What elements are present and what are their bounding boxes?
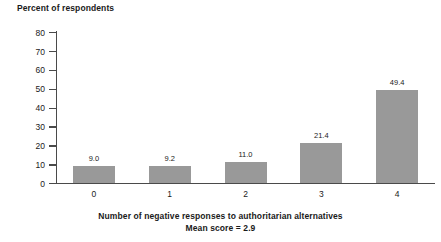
y-axis-tick-label: 50 xyxy=(36,84,45,94)
y-axis-tick: 60 xyxy=(49,70,56,71)
y-axis-tick: 50 xyxy=(49,89,56,90)
bar-value-label: 9.2 xyxy=(164,154,174,163)
y-axis-tick-label: 0 xyxy=(40,179,45,189)
bar: 49.44 xyxy=(376,90,418,183)
y-axis-tick: 70 xyxy=(49,51,56,52)
x-axis-tick-label: 0 xyxy=(92,189,97,199)
bar: 9.21 xyxy=(149,166,191,183)
plot-area: 807060504030201009.009.2111.0221.4349.44 xyxy=(56,32,435,183)
mean-score-note: Mean score = 2.9 xyxy=(0,223,441,233)
y-axis-tick-label: 60 xyxy=(36,65,45,75)
y-axis-tick: 20 xyxy=(49,145,56,146)
x-axis-tick-label: 2 xyxy=(243,189,248,199)
bar-value-label: 49.4 xyxy=(390,78,405,87)
y-axis-tick-label: 80 xyxy=(36,28,45,38)
x-axis-tick-label: 3 xyxy=(319,189,324,199)
y-axis-tick: 0 xyxy=(49,183,56,184)
y-axis-tick-label: 20 xyxy=(36,141,45,151)
bar-value-label: 9.0 xyxy=(89,154,99,163)
bar: 21.43 xyxy=(300,143,342,183)
y-axis-tick: 40 xyxy=(49,108,56,109)
y-axis-tick-label: 30 xyxy=(36,122,45,132)
y-axis-title: Percent of respondents xyxy=(17,3,114,13)
y-axis-tick-label: 10 xyxy=(36,160,45,170)
bar: 11.02 xyxy=(225,162,267,183)
bar: 9.00 xyxy=(73,166,115,183)
bar-value-label: 11.0 xyxy=(238,150,252,159)
y-axis-tick: 30 xyxy=(49,126,56,127)
y-axis-tick: 10 xyxy=(49,164,56,165)
x-axis-tick-label: 4 xyxy=(395,189,400,199)
bar-value-label: 21.4 xyxy=(314,131,329,140)
x-axis-tick-label: 1 xyxy=(167,189,172,199)
y-axis-tick: 80 xyxy=(49,32,56,33)
y-axis-tick-label: 70 xyxy=(36,47,45,57)
x-axis-title: Number of negative responses to authorit… xyxy=(0,211,441,221)
y-axis-tick-label: 40 xyxy=(36,103,45,113)
bar-chart: Percent of respondents 80706050403020100… xyxy=(0,0,441,242)
